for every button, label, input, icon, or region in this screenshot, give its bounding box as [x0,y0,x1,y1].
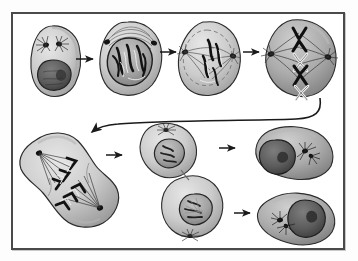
stage-prometaphase [177,22,241,96]
stage-metaphase [261,20,338,100]
anaphase-cell-membrane [20,133,119,227]
mitosis-diagram-figure: Stages of Mitosis (Animal Cell Division) [0,0,358,261]
stage-telophase [140,123,223,241]
telophase-upper-nucleus [154,139,184,168]
mitosis-diagram-canvas [0,0,358,261]
stage-anaphase [20,133,119,227]
daughter-lower-nucleolus [306,211,317,223]
stage-interphase [31,26,81,97]
stage-daughter-cell-lower [257,193,334,245]
stage-daughter-cell-upper [256,127,333,180]
stage-prophase [100,22,162,95]
